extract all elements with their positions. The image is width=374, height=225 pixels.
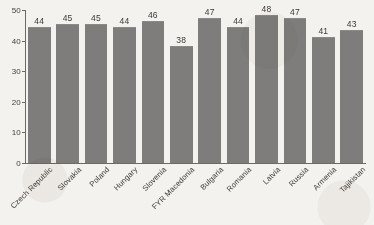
x-axis-category-labels: Czech RepublicSlovakiaPolandHungarySlove… (25, 165, 366, 225)
bar-rect (56, 24, 79, 163)
bar-rect (255, 15, 278, 163)
bar-7: 47 (198, 10, 221, 163)
y-tick-label: 20 (12, 97, 21, 106)
bar-rect (85, 24, 108, 163)
bar-11: 41 (312, 10, 335, 163)
bar-value-label: 48 (262, 4, 272, 14)
bar-5: 46 (142, 10, 165, 163)
bar-8: 44 (227, 10, 250, 163)
bar-1: 44 (28, 10, 51, 163)
bar-10: 47 (284, 10, 307, 163)
y-tick-label: 0 (16, 159, 21, 168)
bar-rect (142, 21, 165, 163)
bar-value-label: 44 (233, 16, 243, 26)
bar-value-label: 43 (347, 19, 357, 29)
bar-value-label: 47 (205, 7, 215, 17)
bar-value-label: 41 (318, 26, 328, 36)
bar-value-label: 45 (91, 13, 101, 23)
plot-area: 01020304050 444545444638474448474143 (25, 10, 366, 163)
bar-value-label: 45 (63, 13, 73, 23)
y-tick-label: 30 (12, 67, 21, 76)
bar-rect (340, 30, 363, 163)
bar-2: 45 (56, 10, 79, 163)
bar-4: 44 (113, 10, 136, 163)
bar-12: 43 (340, 10, 363, 163)
bar-value-label: 38 (176, 35, 186, 45)
bar-9: 48 (255, 10, 278, 163)
bar-3: 45 (85, 10, 108, 163)
bar-rect (227, 27, 250, 163)
bar-rect (170, 46, 193, 163)
y-tick-mark (22, 163, 25, 164)
bar-rect (198, 18, 221, 163)
bar-rect (284, 18, 307, 163)
bar-value-label: 44 (120, 16, 130, 26)
bar-value-label: 46 (148, 10, 158, 20)
bar-rect (113, 27, 136, 163)
bar-rect (28, 27, 51, 163)
x-axis-line (25, 163, 366, 164)
bar-rect (312, 37, 335, 163)
y-tick-label: 40 (12, 36, 21, 45)
bars-layer: 444545444638474448474143 (25, 10, 366, 163)
y-tick-label: 10 (12, 128, 21, 137)
bar-chart: 01020304050 444545444638474448474143 Cze… (0, 0, 374, 225)
bar-value-label: 47 (290, 7, 300, 17)
bar-value-label: 44 (34, 16, 44, 26)
y-tick-label: 50 (12, 6, 21, 15)
bar-6: 38 (170, 10, 193, 163)
